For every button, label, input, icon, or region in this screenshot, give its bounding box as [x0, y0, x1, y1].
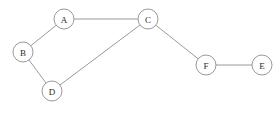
- graph-node-label-c: C: [145, 15, 151, 25]
- graph-node-d[interactable]: D: [42, 81, 62, 101]
- graph-node-b[interactable]: B: [13, 42, 33, 62]
- graph-diagram-canvas: ABCDEF: [0, 0, 278, 113]
- graph-node-a[interactable]: A: [54, 9, 74, 29]
- graph-node-c[interactable]: C: [138, 9, 158, 29]
- graph-diagram-svg: ABCDEF: [0, 0, 278, 113]
- graph-node-label-b: B: [20, 48, 26, 58]
- graph-edge-c-f: [156, 25, 198, 59]
- graph-node-label-a: A: [61, 15, 68, 25]
- graph-edge-a-b: [31, 25, 56, 45]
- graph-edge-c-d: [60, 25, 140, 85]
- graph-node-label-d: D: [49, 87, 56, 97]
- node-layer: ABCDEF: [13, 9, 272, 101]
- graph-node-label-f: F: [203, 61, 208, 71]
- graph-node-f[interactable]: F: [196, 55, 216, 75]
- graph-edge-b-d: [29, 60, 46, 83]
- graph-node-label-e: E: [259, 61, 265, 71]
- graph-node-e[interactable]: E: [252, 55, 272, 75]
